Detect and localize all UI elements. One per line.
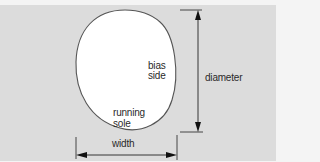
running-sole-label-line1: running <box>113 108 145 118</box>
arrow-up-icon <box>195 10 201 20</box>
arrow-down-icon <box>195 122 201 132</box>
diameter-dimension <box>180 10 203 132</box>
diameter-label: diameter <box>205 73 242 83</box>
bias-side-label-line2: side <box>148 71 166 81</box>
arrow-left-icon <box>76 152 87 158</box>
running-sole-label-line2: sole <box>113 119 131 129</box>
arrow-right-icon <box>166 152 177 158</box>
width-label: width <box>112 139 134 149</box>
